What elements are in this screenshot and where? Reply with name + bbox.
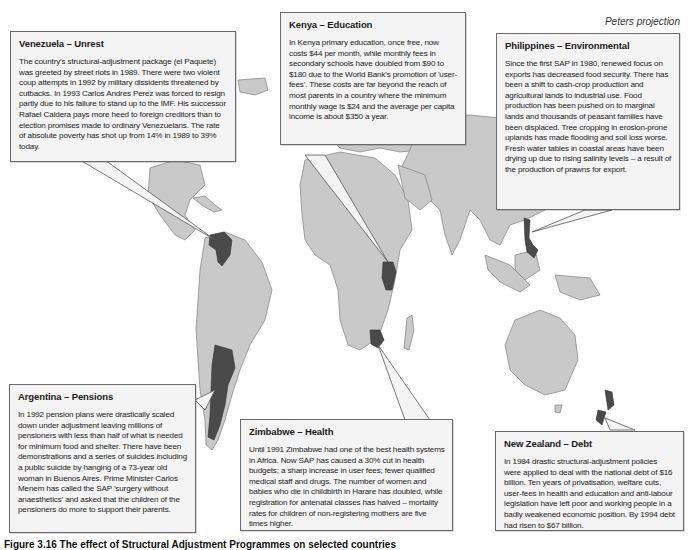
callout-title: Philippines – Environmental bbox=[505, 40, 672, 51]
australia-landmass bbox=[505, 310, 578, 395]
africa-landmass bbox=[300, 152, 412, 350]
tasmania bbox=[555, 405, 562, 413]
callout-kenya: Kenya – Education In Kenya primary educa… bbox=[280, 12, 466, 145]
callout-title: Venezuela – Unrest bbox=[19, 38, 228, 49]
callout-title: Zimbabwe – Health bbox=[249, 426, 445, 437]
callout-venezuela: Venezuela – Unrest The country's structu… bbox=[10, 31, 236, 162]
caribbean-islands bbox=[193, 196, 222, 212]
callout-title: Kenya – Education bbox=[289, 19, 458, 30]
callout-title: New Zealand – Debt bbox=[504, 438, 676, 449]
callout-philippines: Philippines – Environmental Since the fi… bbox=[496, 33, 680, 210]
callout-body: Since the first SAP in 1980, renewed foc… bbox=[505, 59, 672, 176]
zimbabwe-pointer bbox=[378, 345, 430, 420]
philippines-pointer bbox=[532, 210, 612, 232]
callout-argentina: Argentina – Pensions In 1992 pension pla… bbox=[9, 384, 196, 533]
callout-zimbabwe: Zimbabwe – Health Until 1991 Zimbabwe ha… bbox=[240, 419, 453, 531]
callout-body: In 1992 pension plans were drastically s… bbox=[18, 410, 188, 516]
callout-new-zealand: New Zealand – Debt In 1984 drastic struc… bbox=[495, 431, 684, 531]
madagascar bbox=[404, 315, 414, 350]
callout-body: In Kenya primary education, once free, n… bbox=[289, 38, 458, 123]
callout-body: The country's structural-adjustment pack… bbox=[19, 57, 228, 152]
zimbabwe-highlight bbox=[370, 330, 384, 348]
callout-body: Until 1991 Zimbabwe had one of the best … bbox=[249, 445, 445, 530]
callout-title: Argentina – Pensions bbox=[18, 391, 188, 402]
callout-body: In 1984 drastic structural-adjustment po… bbox=[504, 457, 676, 531]
new-guinea bbox=[555, 275, 600, 300]
figure-caption: Figure 3.16 The effect of Structural Adj… bbox=[4, 539, 396, 550]
new-zealand-pointer bbox=[605, 418, 635, 430]
south-america-landmass bbox=[196, 232, 272, 450]
new-zealand-highlight bbox=[596, 390, 614, 425]
canada-fragment bbox=[238, 78, 268, 95]
projection-label: Peters projection bbox=[605, 16, 680, 27]
